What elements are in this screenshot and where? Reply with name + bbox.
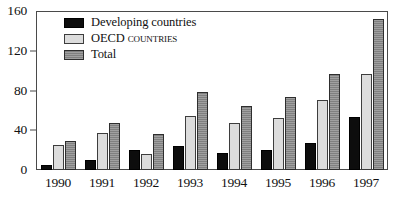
bar-developing-1991 [85, 160, 96, 170]
x-tick-label: 1991 [89, 175, 115, 191]
bar-oecd-1995 [273, 118, 284, 170]
legend-swatch-developing [64, 18, 84, 28]
bar-developing-1993 [173, 146, 184, 170]
x-tick-label: 1990 [45, 175, 71, 191]
x-tick-label: 1997 [353, 175, 379, 191]
y-tick-label: 80 [14, 83, 27, 99]
bar-oecd-1991 [97, 133, 108, 170]
legend-swatch-oecd [64, 34, 84, 44]
x-tick-label: 1996 [309, 175, 335, 191]
legend-label: Developing countries [91, 15, 196, 30]
bar-oecd-1993 [185, 116, 196, 170]
bar-chart: 04080120160 1990199119921993199419951996… [0, 0, 397, 207]
bar-developing-1994 [217, 153, 228, 170]
bar-group [349, 11, 384, 170]
legend-item: OECD countries [64, 31, 244, 46]
bar-total-1993 [197, 92, 208, 171]
y-tick-label: 120 [7, 43, 27, 59]
y-tick-label: 40 [14, 122, 27, 138]
bar-oecd-1996 [317, 100, 328, 170]
bar-developing-1990 [41, 165, 52, 170]
bar-total-1997 [373, 19, 384, 170]
bar-oecd-1997 [361, 74, 372, 170]
legend-label: OECD countries [91, 31, 177, 46]
bar-oecd-1990 [53, 145, 64, 170]
y-axis: 04080120160 [0, 0, 36, 207]
legend-item: Total [64, 47, 244, 62]
bar-developing-1992 [129, 150, 140, 170]
bar-oecd-1994 [229, 123, 240, 170]
legend-label: Total [91, 47, 116, 62]
x-axis: 19901991199219931994199519961997 [36, 172, 388, 202]
bar-total-1994 [241, 106, 252, 170]
y-tick-label: 160 [7, 3, 27, 19]
legend-swatch-total [64, 50, 84, 60]
bar-developing-1996 [305, 143, 316, 170]
bar-total-1995 [285, 97, 296, 170]
bar-developing-1995 [261, 150, 272, 170]
legend-item: Developing countries [64, 15, 244, 30]
bar-oecd-1992 [141, 154, 152, 170]
x-tick-label: 1994 [221, 175, 247, 191]
y-tick-label: 0 [20, 162, 27, 178]
x-tick-label: 1992 [133, 175, 159, 191]
bar-group [261, 11, 296, 170]
x-tick-label: 1995 [265, 175, 291, 191]
bar-total-1992 [153, 134, 164, 170]
x-tick-label: 1993 [177, 175, 203, 191]
bar-total-1996 [329, 74, 340, 170]
bar-developing-1997 [349, 117, 360, 170]
bar-total-1990 [65, 141, 76, 170]
chart-legend: Developing countriesOECD countriesTotal [64, 15, 244, 63]
bar-total-1991 [109, 123, 120, 170]
bar-group [305, 11, 340, 170]
